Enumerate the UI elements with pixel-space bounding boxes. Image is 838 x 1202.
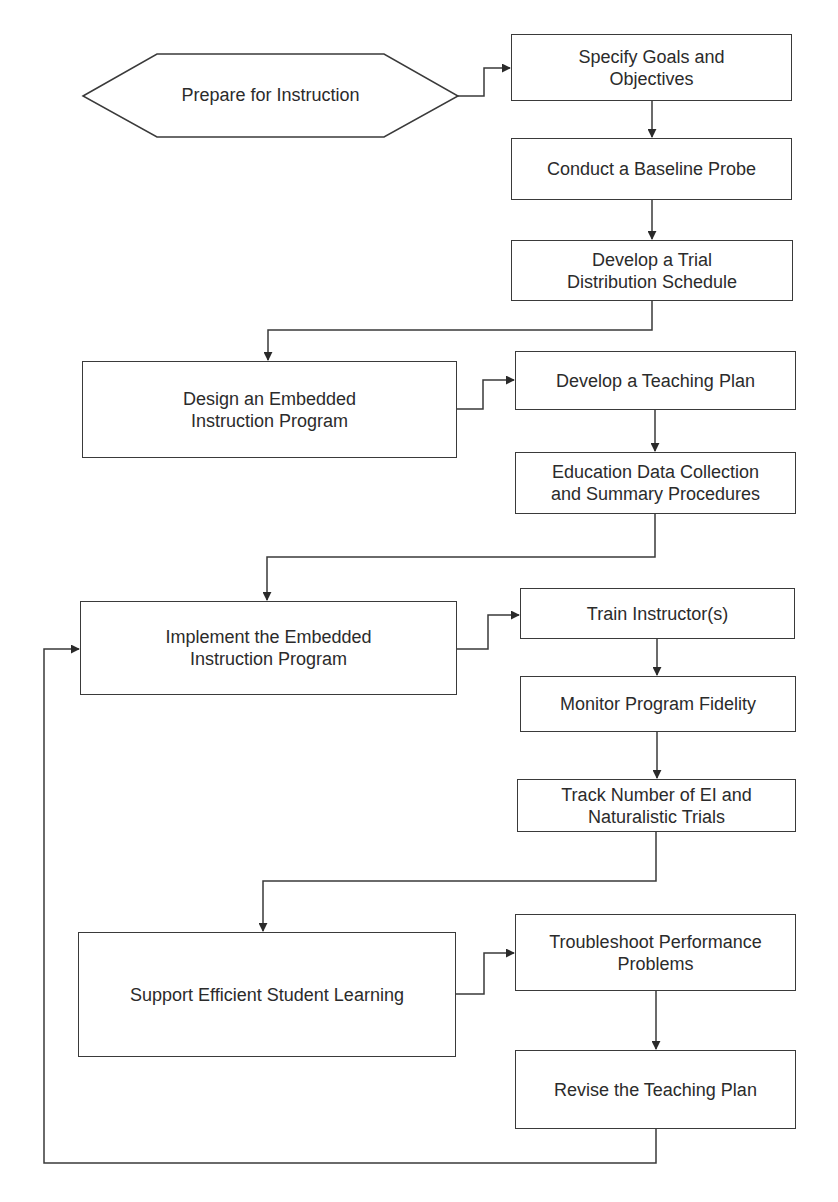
- node-label: Education Data Collection and Summary Pr…: [551, 461, 760, 505]
- node-track-trials: Track Number of EI and Naturalistic Tria…: [517, 779, 796, 832]
- node-train-instructors: Train Instructor(s): [520, 588, 795, 639]
- node-support-student-learning: Support Efficient Student Learning: [78, 932, 456, 1057]
- node-specify-goals: Specify Goals and Objectives: [511, 34, 792, 101]
- node-revise-teaching-plan: Revise the Teaching Plan: [515, 1050, 796, 1129]
- edge-design-teachingplan: [457, 380, 514, 409]
- edge-support-troubleshoot: [456, 953, 514, 994]
- node-label: Specify Goals and Objectives: [578, 46, 724, 90]
- edge-implement-train: [457, 615, 519, 649]
- node-label: Revise the Teaching Plan: [554, 1079, 757, 1101]
- node-develop-teaching-plan: Develop a Teaching Plan: [515, 351, 796, 410]
- edge-prepare-goals: [458, 68, 510, 96]
- node-monitor-program-fidelity: Monitor Program Fidelity: [520, 676, 796, 732]
- node-label: Track Number of EI and Naturalistic Tria…: [561, 784, 751, 828]
- node-implement-embedded-instruction: Implement the Embedded Instruction Progr…: [80, 601, 457, 695]
- node-design-embedded-instruction: Design an Embedded Instruction Program: [82, 361, 457, 458]
- node-trial-distribution-schedule: Develop a Trial Distribution Schedule: [511, 240, 793, 301]
- node-troubleshoot-performance: Troubleshoot Performance Problems: [515, 914, 796, 991]
- node-label: Monitor Program Fidelity: [560, 693, 756, 715]
- node-label: Develop a Trial Distribution Schedule: [567, 249, 737, 293]
- node-prepare-for-instruction: Prepare for Instruction: [83, 54, 458, 137]
- node-label: Design an Embedded Instruction Program: [183, 388, 356, 432]
- node-data-collection-procedures: Education Data Collection and Summary Pr…: [515, 452, 796, 514]
- node-label: Implement the Embedded Instruction Progr…: [165, 626, 371, 670]
- node-label: Troubleshoot Performance Problems: [549, 931, 761, 975]
- node-label: Develop a Teaching Plan: [556, 370, 755, 392]
- node-label: Conduct a Baseline Probe: [547, 158, 756, 180]
- node-label: Train Instructor(s): [587, 603, 728, 625]
- node-baseline-probe: Conduct a Baseline Probe: [511, 138, 792, 200]
- node-label: Support Efficient Student Learning: [130, 984, 404, 1006]
- node-label: Prepare for Instruction: [181, 85, 359, 106]
